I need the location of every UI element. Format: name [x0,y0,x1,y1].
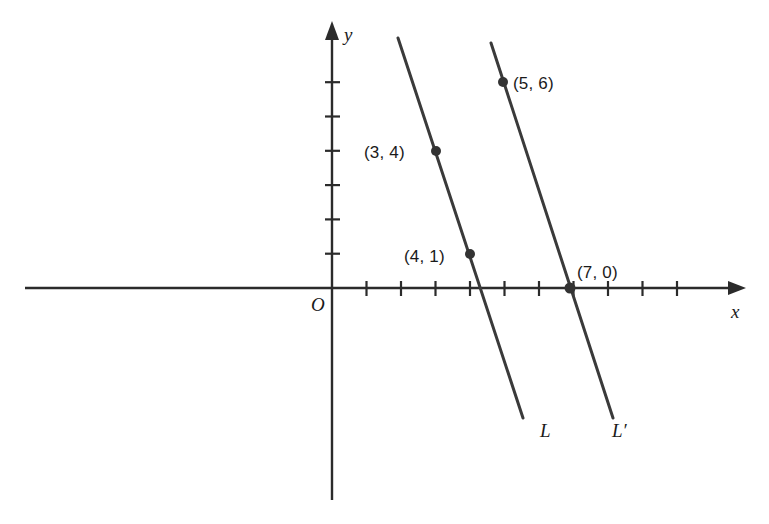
point-5-6 [498,77,508,87]
point-label-3-4: (3, 4) [364,144,405,161]
x-axis-arrow-icon [728,281,746,295]
line-label-L-prime: L′ [612,421,627,440]
point-label-5-6: (5, 6) [513,75,554,92]
line-L-prime [491,43,613,418]
point-label-7-0: (7, 0) [577,264,618,281]
point-label-4-1: (4, 1) [404,248,445,265]
graph-canvas [0,0,769,524]
origin-label: O [311,295,325,314]
line-L [398,38,523,418]
x-axis-label: x [731,302,739,321]
point-3-4 [431,146,441,156]
y-axis-label: y [344,25,352,44]
point-4-1 [465,249,475,259]
y-axis-arrow-icon [325,21,339,40]
point-7-0 [565,283,576,294]
coordinate-plane-figure: y x O (3, 4) (4, 1) (5, 6) (7, 0) L L′ [0,0,769,524]
line-label-L: L [540,421,551,440]
